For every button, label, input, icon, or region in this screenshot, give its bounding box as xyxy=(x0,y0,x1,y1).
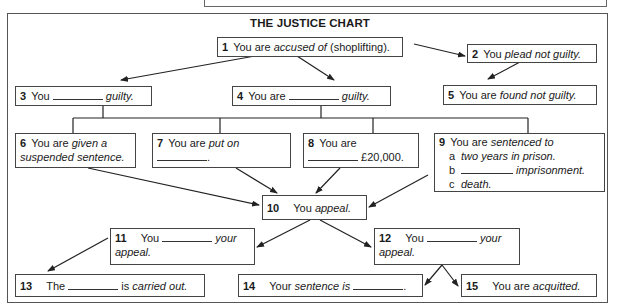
fill-in-blank[interactable] xyxy=(427,231,477,242)
step-key-phrase: given a xyxy=(72,137,107,149)
fill-in-blank[interactable] xyxy=(308,150,358,161)
step-text: You are xyxy=(168,137,209,149)
step-4-guilty-box: 4You are guilty. xyxy=(232,86,391,106)
step-2-plead-box: 2You plead not guilty. xyxy=(467,44,597,63)
step-text: £20,000. xyxy=(358,151,404,163)
step-text: You are xyxy=(450,136,491,148)
step-text: You are xyxy=(459,89,500,101)
step-9-sentenced-box: 9You are sentenced to atwo years in pris… xyxy=(434,133,605,192)
step-number: 3 xyxy=(20,90,26,102)
step-key-phrase: plead not guilty. xyxy=(505,48,581,60)
step-8-fine-box: 8You are £20,000. xyxy=(303,133,419,168)
step-number: 9 xyxy=(439,136,445,148)
step-number: 7 xyxy=(157,137,163,149)
option-label: c xyxy=(449,178,461,192)
step-number: 11 xyxy=(115,232,127,244)
step-text: You xyxy=(141,232,163,244)
step-text: (shoplifting). xyxy=(327,41,390,53)
step-number: 4 xyxy=(237,90,243,102)
step-key-phrase: found not guilty. xyxy=(500,89,577,101)
step-number: 14 xyxy=(243,280,255,292)
option-text: imprisonment. xyxy=(513,164,585,176)
step-number: 13 xyxy=(20,280,32,292)
step-key-phrase: guilty. xyxy=(106,90,134,102)
step-key-phrase: put on xyxy=(209,137,240,149)
chart-title: THE JUSTICE CHART xyxy=(0,17,620,29)
step-text: You are xyxy=(31,137,72,149)
step-key-phrase: guilty. xyxy=(342,90,370,102)
step-7-put-on-box: 7You are put on. xyxy=(152,133,291,168)
step-14-sentence-box: 14Your sentence is . xyxy=(238,274,423,297)
step-15-acquitted-box: 15You are acquitted. xyxy=(461,274,597,297)
step-text: . xyxy=(403,280,406,292)
step-13-carried-out-box: 13The is carried out. xyxy=(15,274,205,297)
step-text: You are xyxy=(492,280,533,292)
step-5-not-guilty-box: 5You are found not guilty. xyxy=(443,85,597,105)
step-key-phrase: carried out. xyxy=(132,280,187,292)
fill-in-blank[interactable] xyxy=(461,163,513,174)
option-text: two years in prison. xyxy=(461,150,556,162)
step-number: 5 xyxy=(448,89,454,101)
step-key-phrase: your xyxy=(477,232,501,244)
step-12-appeal-result-box: 12You yourappeal. xyxy=(374,228,520,265)
step-number: 1 xyxy=(222,41,228,53)
option-text: death. xyxy=(461,178,492,190)
option-b: b imprisonment. xyxy=(449,163,600,178)
step-number: 12 xyxy=(379,232,391,244)
step-11-appeal-result-box: 11You yourappeal. xyxy=(110,228,255,265)
fill-in-blank[interactable] xyxy=(157,150,207,161)
step-text: . xyxy=(207,151,210,163)
step-key-phrase: sentence is xyxy=(295,280,354,292)
step-10-appeal-box: 10You appeal. xyxy=(262,195,367,220)
step-key-phrase: acquitted. xyxy=(533,280,581,292)
option-label: b xyxy=(449,164,461,178)
step-text: is xyxy=(118,280,132,292)
fill-in-blank[interactable] xyxy=(289,89,339,100)
option-a: atwo years in prison. xyxy=(449,150,600,164)
fill-in-blank[interactable] xyxy=(68,279,118,290)
step-number: 8 xyxy=(308,137,314,149)
fill-in-blank[interactable] xyxy=(53,89,103,100)
step-key-phrase: sentenced to xyxy=(491,136,554,148)
step-key-phrase: appeal. xyxy=(315,202,351,214)
step-3-guilty-box: 3You guilty. xyxy=(15,86,152,106)
step-text: You xyxy=(31,90,53,102)
step-key-phrase: your xyxy=(212,232,236,244)
step-number: 6 xyxy=(20,137,26,149)
step-number: 2 xyxy=(472,48,478,60)
step-6-suspended-box: 6You are given asuspended sentence. xyxy=(15,133,136,168)
step-text: The xyxy=(46,280,68,292)
step-text: You xyxy=(405,232,427,244)
step-1-accused-box: 1You are accused of (shoplifting). xyxy=(217,37,403,57)
step-text: You xyxy=(483,48,505,60)
step-number: 10 xyxy=(267,202,279,214)
option-label: a xyxy=(449,150,461,164)
step-text: You are xyxy=(319,137,357,149)
step-number: 15 xyxy=(466,280,478,292)
step-key-phrase: appeal. xyxy=(115,246,151,258)
step-text: You are xyxy=(233,41,274,53)
step-key-phrase: suspended sentence. xyxy=(20,151,125,163)
fill-in-blank[interactable] xyxy=(162,231,212,242)
option-c: cdeath. xyxy=(449,178,600,192)
step-text: You are xyxy=(248,90,289,102)
step-text: You xyxy=(293,202,315,214)
step-key-phrase: accused of xyxy=(274,41,327,53)
step-text: Your xyxy=(269,280,294,292)
fill-in-blank[interactable] xyxy=(353,279,403,290)
step-key-phrase: appeal. xyxy=(379,246,415,258)
